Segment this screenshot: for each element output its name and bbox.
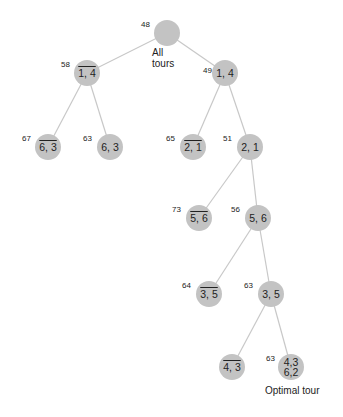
node-bound: 51 [223, 134, 232, 143]
tree-node-excluded: 5, 6 [186, 205, 212, 231]
node-label-line2: 6,2 [284, 367, 299, 377]
node-bound: 73 [172, 205, 181, 214]
tree-node-excluded: 1, 4 [74, 60, 100, 86]
node-label: 3, 5 [200, 289, 218, 299]
tree-node: 1, 4 [212, 60, 238, 86]
node-label: 1, 4 [78, 68, 96, 78]
node-label: 4, 3 [223, 362, 241, 372]
node-bound: 67 [22, 134, 31, 143]
node-bound: 64 [182, 281, 191, 290]
tree-node: 6, 3 [97, 134, 123, 160]
tree-node-excluded: 3, 5 [196, 281, 222, 307]
root-bound: 48 [141, 20, 150, 29]
node-bound: 63 [83, 134, 92, 143]
root-node [154, 20, 180, 46]
node-bound: 58 [61, 60, 70, 69]
node-label: 6, 3 [101, 142, 119, 152]
node-label: 5, 6 [190, 213, 208, 223]
node-bound: 63 [266, 354, 275, 363]
node-bound: 49 [203, 66, 212, 75]
tree-node: 5, 6 [245, 205, 271, 231]
tree-node: 3, 5 [258, 281, 284, 307]
optimal-tour-node: 4,3 6,2 [278, 354, 304, 380]
node-label: 2, 1 [241, 142, 259, 152]
node-bound: 63 [244, 281, 253, 290]
node-label: 2, 1 [184, 142, 202, 152]
node-bound: 56 [231, 205, 240, 214]
tree-node-excluded: 4, 3 [219, 354, 245, 380]
node-label: 3, 5 [262, 289, 280, 299]
tree-node-excluded: 6, 3 [35, 134, 61, 160]
tree-node: 2, 1 [237, 134, 263, 160]
root-caption-line2: tours [152, 58, 174, 69]
root-caption-line1: All [152, 47, 174, 58]
node-bound: 65 [166, 134, 175, 143]
node-label: 5, 6 [249, 213, 267, 223]
node-label: 1, 4 [216, 68, 234, 78]
node-label: 6, 3 [39, 142, 57, 152]
optimal-tour-caption: Optimal tour [265, 385, 319, 396]
tree-node-excluded: 2, 1 [180, 134, 206, 160]
root-caption: All tours [152, 47, 174, 69]
